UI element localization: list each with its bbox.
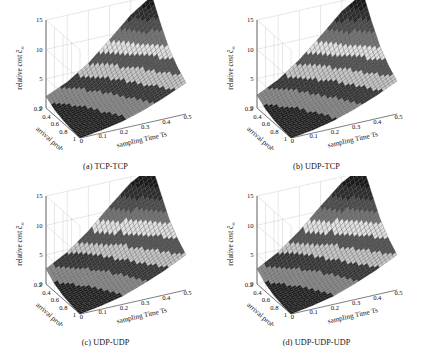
panel-a: 0510150.20.40.60.8100.10.20.30.40.5relat… bbox=[0, 0, 211, 175]
svg-text:15: 15 bbox=[247, 16, 254, 23]
svg-text:0.5: 0.5 bbox=[183, 289, 192, 296]
svg-text:0.3: 0.3 bbox=[352, 123, 361, 130]
svg-text:0.3: 0.3 bbox=[141, 299, 150, 306]
svg-text:15: 15 bbox=[36, 16, 43, 23]
svg-text:0.4: 0.4 bbox=[373, 294, 382, 301]
svg-text:10: 10 bbox=[36, 46, 43, 53]
svg-text:0.2: 0.2 bbox=[120, 304, 128, 311]
svg-text:0.1: 0.1 bbox=[310, 132, 318, 139]
svg-text:0.6: 0.6 bbox=[51, 296, 60, 303]
panel-d: 0510150.20.40.60.8100.10.20.30.40.5relat… bbox=[211, 176, 422, 351]
svg-text:0.4: 0.4 bbox=[42, 113, 51, 120]
svg-text:10: 10 bbox=[36, 222, 43, 229]
svg-text:1: 1 bbox=[284, 311, 287, 318]
panel-caption-c: (c) UDP-UDP bbox=[0, 338, 211, 347]
panel-b: 0510150.20.40.60.8100.10.20.30.40.5relat… bbox=[211, 0, 422, 175]
svg-text:0.8: 0.8 bbox=[59, 128, 68, 135]
surface-plot-d: 0510150.20.40.60.8100.10.20.30.40.5relat… bbox=[211, 176, 422, 326]
plot-area-b: 0510150.20.40.60.8100.10.20.30.40.5relat… bbox=[211, 0, 422, 150]
svg-text:0.6: 0.6 bbox=[51, 120, 60, 127]
svg-text:0.2: 0.2 bbox=[34, 105, 42, 112]
plot-area-c: 0510150.20.40.60.8100.10.20.30.40.5relat… bbox=[0, 176, 211, 326]
svg-text:0.2: 0.2 bbox=[331, 304, 339, 311]
surface-plot-c: 0510150.20.40.60.8100.10.20.30.40.5relat… bbox=[0, 176, 211, 326]
svg-text:5: 5 bbox=[39, 75, 43, 82]
svg-text:0.4: 0.4 bbox=[162, 294, 171, 301]
svg-text:0: 0 bbox=[80, 313, 84, 320]
svg-text:0.6: 0.6 bbox=[262, 296, 271, 303]
svg-text:0.6: 0.6 bbox=[262, 120, 271, 127]
svg-text:0: 0 bbox=[291, 313, 295, 320]
surface-plot-b: 0510150.20.40.60.8100.10.20.30.40.5relat… bbox=[211, 0, 422, 150]
svg-text:1: 1 bbox=[73, 135, 76, 142]
svg-text:10: 10 bbox=[247, 222, 254, 229]
svg-text:0.5: 0.5 bbox=[394, 113, 403, 120]
svg-text:relative cost ĉ∞: relative cost ĉ∞ bbox=[16, 222, 25, 266]
panel-caption-b: (b) UDP-TCP bbox=[211, 162, 422, 171]
svg-text:15: 15 bbox=[247, 192, 254, 199]
svg-text:1: 1 bbox=[73, 311, 76, 318]
svg-text:0.8: 0.8 bbox=[270, 128, 279, 135]
svg-text:relative cost ĉ∞: relative cost ĉ∞ bbox=[227, 46, 236, 90]
panel-c: 0510150.20.40.60.8100.10.20.30.40.5relat… bbox=[0, 176, 211, 351]
svg-text:0: 0 bbox=[80, 137, 84, 144]
svg-text:0.5: 0.5 bbox=[183, 113, 192, 120]
svg-text:0.2: 0.2 bbox=[120, 128, 128, 135]
plot-area-d: 0510150.20.40.60.8100.10.20.30.40.5relat… bbox=[211, 176, 422, 326]
svg-text:0.3: 0.3 bbox=[352, 299, 361, 306]
svg-text:1: 1 bbox=[284, 135, 287, 142]
svg-text:relative cost ĉ∞: relative cost ĉ∞ bbox=[16, 46, 25, 90]
svg-text:0.8: 0.8 bbox=[59, 304, 68, 311]
svg-text:5: 5 bbox=[39, 251, 43, 258]
svg-text:0.4: 0.4 bbox=[162, 118, 171, 125]
svg-text:15: 15 bbox=[36, 192, 43, 199]
svg-text:0.4: 0.4 bbox=[253, 113, 262, 120]
svg-text:0.2: 0.2 bbox=[34, 281, 42, 288]
svg-text:0.4: 0.4 bbox=[373, 118, 382, 125]
svg-text:5: 5 bbox=[250, 251, 254, 258]
svg-text:10: 10 bbox=[247, 46, 254, 53]
svg-text:5: 5 bbox=[250, 75, 254, 82]
surface-plot-a: 0510150.20.40.60.8100.10.20.30.40.5relat… bbox=[0, 0, 211, 150]
svg-text:0: 0 bbox=[291, 137, 295, 144]
svg-text:0.1: 0.1 bbox=[310, 308, 318, 315]
figure-four-surface-plots: 0510150.20.40.60.8100.10.20.30.40.5relat… bbox=[0, 0, 422, 351]
svg-text:0.2: 0.2 bbox=[331, 128, 339, 135]
svg-text:0.8: 0.8 bbox=[270, 304, 279, 311]
plot-area-a: 0510150.20.40.60.8100.10.20.30.40.5relat… bbox=[0, 0, 211, 150]
svg-text:0.2: 0.2 bbox=[245, 281, 253, 288]
svg-text:0.4: 0.4 bbox=[253, 289, 262, 296]
svg-text:0.4: 0.4 bbox=[42, 289, 51, 296]
panel-caption-a: (a) TCP-TCP bbox=[0, 162, 211, 171]
svg-text:0.2: 0.2 bbox=[245, 105, 253, 112]
svg-text:0.5: 0.5 bbox=[394, 289, 403, 296]
panel-caption-d: (d) UDP-UDP-UDP bbox=[211, 338, 422, 347]
svg-text:relative cost ĉ∞: relative cost ĉ∞ bbox=[227, 222, 236, 266]
svg-text:0.1: 0.1 bbox=[99, 132, 107, 139]
svg-text:0.3: 0.3 bbox=[141, 123, 150, 130]
svg-text:0.1: 0.1 bbox=[99, 308, 107, 315]
